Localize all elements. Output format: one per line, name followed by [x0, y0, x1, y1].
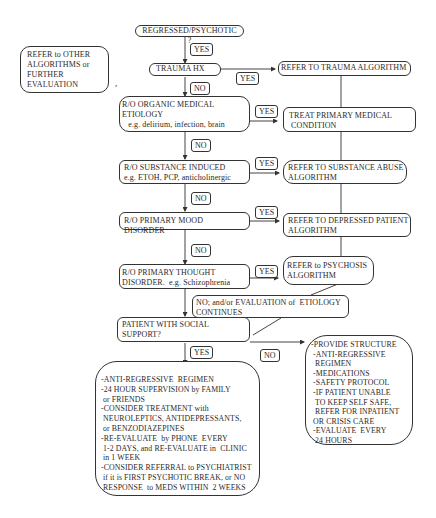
- no-plan-line: TO KEEP SELF SAFE,: [311, 398, 409, 408]
- refer-substance-line: ALGORITHM: [288, 173, 402, 183]
- yes-text: YES: [259, 107, 274, 116]
- yes-social-support-plan-node: -ANTI-REGRESSIVE REGIMEN -24 HOUR SUPERV…: [95, 361, 260, 496]
- yes-text: YES: [240, 74, 255, 83]
- rule-out-substance-node: R/O SUBSTANCE INDUCED e.g. ETOH, PCP, an…: [119, 160, 250, 184]
- no-label-mood: NO: [191, 244, 211, 257]
- refer-other-line: EVALUATION: [27, 80, 102, 90]
- rule-out-mood-node: R/O PRIMARY MOOD DISORDER: [119, 212, 250, 230]
- rule-out-organic-node: R/O ORGANIC MEDICAL ETIOLOGY e.g. deliri…: [119, 96, 250, 132]
- no-plan-line: -EVALUATE EVERY: [311, 426, 409, 436]
- yes-plan-line: or BENZODIAZEPINES: [101, 424, 253, 434]
- no-plan-line: -ANTI-REGRESSIVE: [311, 350, 409, 360]
- no-text: NO: [264, 351, 276, 360]
- no-plan-line: -SAFETY PROTOCOL: [311, 378, 409, 388]
- refer-other-line: ALGORITHMS or: [27, 60, 102, 70]
- start-node-regressed-psychotic: REGRESSED/PSYCHOTIC ?: [135, 25, 244, 37]
- yes-text: YES: [259, 267, 274, 276]
- no-text: NO: [195, 141, 207, 150]
- organic-line: e.g. delirium, infection, brain: [122, 120, 247, 130]
- refer-psychosis-algorithm-node: REFER to PSYCHOSIS ALGORITHM: [283, 256, 374, 285]
- yes-label-organic: YES: [255, 105, 278, 118]
- no-plan-line: REGIMEN: [311, 359, 409, 369]
- yes-plan-line: if it is FIRST PSYCHOTIC BREAK, or NO: [101, 473, 253, 483]
- no-label-substance: NO: [191, 192, 211, 205]
- treat-medical-line: CONDITION: [289, 121, 410, 131]
- refer-trauma-text: REFER TO TRAUMA ALGORITHM: [281, 63, 406, 72]
- no-plan-line: -MEDICATIONS: [311, 369, 409, 379]
- no-plan-line: 24 HOURS: [311, 436, 409, 446]
- social-support-line: PATIENT WITH SOCIAL: [122, 320, 245, 330]
- yes-plan-line: -CONSIDER TREATMENT with: [101, 404, 253, 414]
- yes-plan-line: RESPONSE to MEDS WITHIN 2 WEEKS: [101, 483, 253, 493]
- refer-depressed-line: REFER TO DEPRESSED PATIENT: [288, 216, 406, 226]
- refer-trauma-algorithm-node: REFER TO TRAUMA ALGORITHM: [278, 61, 411, 76]
- yes-label-trauma: YES: [236, 72, 259, 85]
- thought-line: R/O PRIMARY THOUGHT: [122, 268, 247, 278]
- treat-medical-line: TREAT PRIMARY MEDICAL: [289, 111, 410, 121]
- no-text: NO: [194, 84, 206, 93]
- no-text: NO: [195, 246, 207, 255]
- treat-primary-medical-node: TREAT PRIMARY MEDICAL CONDITION: [283, 107, 416, 132]
- yes-text: YES: [194, 45, 209, 54]
- substance-line: e.g. ETOH, PCP, anticholinergic: [124, 173, 245, 183]
- no-plan-line: -IF PATIENT UNABLE: [311, 388, 409, 398]
- no-label-social: NO: [260, 349, 280, 362]
- refer-other-algorithms-node: REFER to OTHER ALGORITHMS or FURTHER EVA…: [20, 46, 109, 93]
- yes-label-thought: YES: [255, 265, 278, 278]
- yes-text: YES: [259, 208, 274, 217]
- social-support-node: PATIENT WITH SOCIAL SUPPORT?: [117, 317, 250, 342]
- yes-label-start: YES: [190, 43, 213, 56]
- yes-text: YES: [259, 159, 274, 168]
- yes-plan-line: or FRIENDS: [101, 395, 253, 405]
- thought-line: DISORDER. e.g. Schizophrenia: [122, 278, 247, 288]
- yes-plan-line: -ANTI-REGRESSIVE REGIMEN: [101, 375, 253, 385]
- trauma-hx-node: TRAUMA HX: [149, 63, 221, 76]
- no-social-support-plan-node: -PROVIDE STRUCTURE -ANTI-REGRESSIVE REGI…: [305, 335, 413, 445]
- stray-mark: ,: [115, 78, 117, 88]
- yes-label-substance: YES: [255, 157, 278, 170]
- refer-other-line: REFER to OTHER: [27, 50, 102, 60]
- no-label-trauma: NO: [190, 82, 210, 95]
- refer-other-line: FURTHER: [27, 70, 102, 80]
- yes-plan-line: 1-2 DAYS, and RE-EVALUATE in CLINIC: [101, 444, 253, 454]
- yes-text: YES: [194, 348, 209, 357]
- refer-substance-line: REFER TO SUBSTANCE ABUSE: [288, 163, 402, 173]
- yes-plan-line: -24 HOUR SUPERVISION by FAMILY: [101, 385, 253, 395]
- refer-psychosis-line: ALGORITHM: [287, 271, 370, 281]
- no-plan-line: -PROVIDE STRUCTURE: [311, 340, 409, 350]
- yes-plan-line: -CONSIDER REFERRAL to PSYCHIATRIST: [101, 463, 253, 473]
- trauma-hx-text: TRAUMA HX: [156, 64, 205, 73]
- yes-plan-line: in 1 WEEK: [101, 453, 253, 463]
- rule-out-thought-disorder-node: R/O PRIMARY THOUGHT DISORDER. e.g. Schiz…: [119, 264, 250, 289]
- organic-line: R/O ORGANIC MEDICAL: [122, 100, 247, 110]
- social-support-line: SUPPORT?: [122, 330, 245, 340]
- refer-psychosis-line: REFER to PSYCHOSIS: [287, 261, 370, 271]
- no-plan-line: OR CRISIS CARE: [311, 417, 409, 427]
- no-label-organic: NO: [191, 139, 211, 152]
- refer-depressed-patient-node: REFER TO DEPRESSED PATIENT ALGORITHM: [283, 213, 411, 237]
- substance-line: R/O SUBSTANCE INDUCED: [124, 163, 245, 173]
- no-text: NO: [195, 194, 207, 203]
- yes-plan-line: -RE-EVALUATE by PHONE EVERY: [101, 434, 253, 444]
- refer-substance-abuse-node: REFER TO SUBSTANCE ABUSE ALGORITHM: [283, 160, 407, 184]
- yes-label-social: YES: [190, 346, 213, 359]
- no-continues-line: NO; and/or EVALUATION of ETIOLOGY: [196, 298, 345, 308]
- yes-plan-line: NEUROLEPTICS, ANTIDEPRESSANTS,: [101, 414, 253, 424]
- refer-depressed-line: ALGORITHM: [288, 226, 406, 236]
- no-evaluation-continues-node: NO; and/or EVALUATION of ETIOLOGY CONTIN…: [192, 295, 349, 318]
- organic-line: ETIOLOGY: [122, 110, 247, 120]
- no-plan-line: REFER FOR INPATIENT: [311, 407, 409, 417]
- yes-label-mood: YES: [255, 206, 278, 219]
